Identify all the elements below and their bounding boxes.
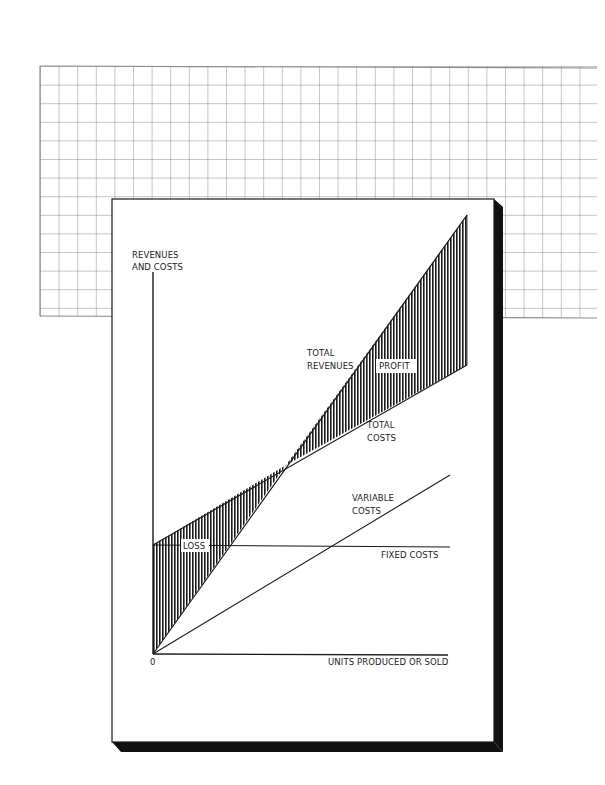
total-revenues-label-line1: TOTAL — [306, 348, 335, 358]
origin-label: 0 — [150, 657, 156, 667]
y-axis-label-line2: AND COSTS — [132, 262, 183, 272]
y-axis-label-line1: REVENUES — [132, 250, 179, 260]
x-axis — [153, 654, 448, 655]
variable-costs-label-line2: COSTS — [352, 506, 381, 516]
fixed-costs-label: FIXED COSTS — [381, 550, 439, 560]
profit-label: PROFIT — [379, 361, 411, 371]
break-even-diagram: REVENUES AND COSTS TOTAL REVENUES PROFIT… — [0, 0, 605, 785]
total-costs-label-line2: COSTS — [367, 433, 396, 443]
total-costs-label-line1: TOTAL — [366, 420, 395, 430]
loss-label: LOSS — [183, 541, 205, 551]
total-revenues-label-line2: REVENUES — [307, 361, 354, 371]
x-axis-label: UNITS PRODUCED OR SOLD — [328, 657, 449, 667]
variable-costs-label-line1: VARIABLE — [352, 493, 394, 503]
